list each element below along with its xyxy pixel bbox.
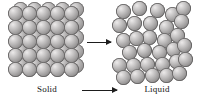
- solid-particle: [8, 6, 23, 21]
- solid-particle: [50, 34, 65, 49]
- solid-particle: [64, 34, 79, 49]
- solid-particle: [50, 48, 65, 63]
- liquid-particle: [116, 70, 131, 85]
- solid-particle: [36, 20, 51, 35]
- liquid-particle: [178, 52, 193, 67]
- liquid-particle: [174, 14, 189, 29]
- solid-particle: [22, 62, 37, 77]
- liquid-particle: [145, 68, 160, 83]
- solid-particle: [22, 20, 37, 35]
- liquid-particle: [127, 16, 142, 31]
- solid-particle: [8, 62, 23, 77]
- solid-particle: [36, 48, 51, 63]
- upper-arrow-icon: [87, 42, 111, 43]
- solid-particle: [64, 48, 79, 63]
- phase-change-figure: Solid Liquid: [0, 0, 198, 103]
- liquid-particle: [137, 43, 152, 58]
- liquid-particle: [112, 18, 127, 33]
- solid-particle: [8, 48, 23, 63]
- solid-label: Solid: [25, 84, 69, 94]
- solid-particle: [36, 62, 51, 77]
- solid-particle: [36, 34, 51, 49]
- solid-particle: [64, 62, 79, 77]
- solid-particle: [64, 20, 79, 35]
- lower-arrow-icon: [82, 90, 117, 91]
- solid-particle: [36, 6, 51, 21]
- liquid-particle: [130, 69, 145, 84]
- solid-particle: [8, 34, 23, 49]
- solid-particle: [22, 6, 37, 21]
- solid-particle: [8, 20, 23, 35]
- liquid-label: Liquid: [133, 84, 181, 94]
- solid-particle: [50, 6, 65, 21]
- solid-particle: [50, 62, 65, 77]
- solid-particle: [64, 6, 79, 21]
- solid-particle-lattice: [0, 0, 92, 82]
- liquid-particle: [177, 38, 192, 53]
- liquid-particle: [132, 1, 147, 16]
- solid-particle: [50, 20, 65, 35]
- liquid-particle: [172, 66, 187, 81]
- liquid-particle: [143, 16, 158, 31]
- solid-particle: [22, 48, 37, 63]
- solid-particle: [22, 34, 37, 49]
- liquid-particle-cluster: [112, 0, 198, 86]
